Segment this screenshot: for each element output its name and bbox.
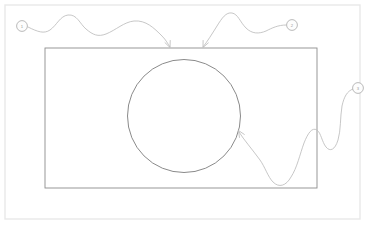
arrowhead-3 (239, 131, 245, 138)
marker-group: 1 2 3 (17, 20, 364, 94)
sketch-scene: 1 2 3 (0, 0, 371, 227)
connector-wavy-arrow-3 (239, 89, 353, 185)
marker-badge-1[interactable]: 1 (17, 21, 28, 32)
connector-wavy-arrow-2 (203, 13, 286, 47)
main-circle (128, 60, 241, 173)
marker-badge-2[interactable]: 2 (287, 20, 298, 31)
diagram-canvas: 1 2 3 (0, 0, 371, 227)
connector-group (28, 13, 353, 186)
connector-wavy-arrow-1 (28, 15, 170, 47)
outer-page-frame (5, 5, 360, 219)
main-rectangle (45, 48, 317, 188)
marker-badge-3[interactable]: 3 (353, 83, 364, 94)
